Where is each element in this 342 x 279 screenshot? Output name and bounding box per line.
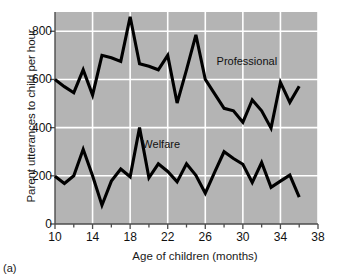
series-label-welfare: Welfare [142,138,180,150]
x-tick-label: 22 [161,230,174,244]
x-tick-label: 14 [86,230,99,244]
figure-caption: (a) [3,262,16,274]
x-tick-label: 18 [123,230,136,244]
x-tick-label: 10 [48,230,61,244]
figure-panel: Parent utterances to child per hour 0200… [0,0,342,279]
x-axis-tick-labels: 1014182226303438ProfessionalWelfare [0,0,342,279]
x-axis-title-text: Age of children (months) [132,250,257,262]
x-tick-label: 26 [199,230,212,244]
x-tick-label: 30 [236,230,249,244]
x-tick-label: 34 [274,230,287,244]
x-tick-label: 38 [311,230,324,244]
x-axis-title: Age of children (months) [0,250,342,262]
series-label-professional: Professional [217,55,278,67]
